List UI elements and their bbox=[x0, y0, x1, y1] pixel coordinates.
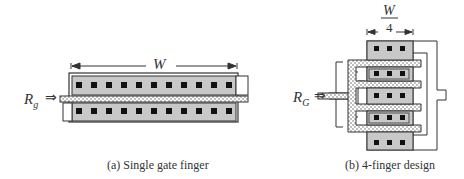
gate-resistance-label: Rg bbox=[24, 92, 38, 110]
rg-main-b: R bbox=[293, 89, 302, 105]
drain-bus bbox=[413, 41, 446, 150]
rg-main: R bbox=[24, 91, 33, 107]
width-label: W bbox=[153, 57, 166, 72]
input-arrow-icon: ⇒ bbox=[45, 91, 57, 105]
drain-extension bbox=[236, 76, 248, 95]
width-quarter-denominator: 4 bbox=[386, 21, 393, 34]
gate-poly-strip bbox=[60, 96, 248, 102]
figure-b-four-finger bbox=[318, 18, 446, 150]
caption-b: (b) 4-finger design bbox=[345, 159, 435, 171]
gate-resistance-label-b: RG bbox=[293, 90, 309, 108]
source-extension bbox=[63, 103, 72, 121]
width-quarter-numerator: W bbox=[383, 4, 395, 18]
rg-sub-b: G bbox=[302, 97, 309, 108]
caption-a: (a) Single gate finger bbox=[107, 159, 209, 171]
rg-sub: g bbox=[33, 99, 38, 110]
diagram-canvas bbox=[0, 0, 464, 179]
input-arrow-icon-b: ⇒ bbox=[314, 89, 326, 103]
